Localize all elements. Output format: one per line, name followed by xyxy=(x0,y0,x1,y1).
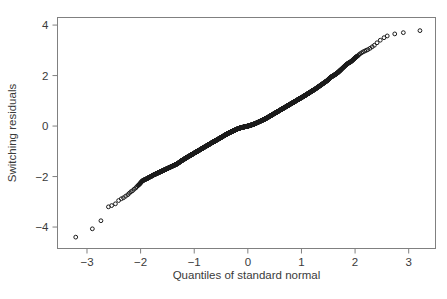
qq-plot-screenshot: −3−2−10123 420−2−4 Quantiles of standard… xyxy=(0,0,447,299)
figure-background xyxy=(0,0,447,299)
x-tick-label: 1 xyxy=(298,256,304,268)
x-tick-label: −1 xyxy=(188,256,201,268)
y-axis-label: Switching residuals xyxy=(6,84,18,183)
x-tick-label: 0 xyxy=(245,256,251,268)
y-tick-label: 4 xyxy=(42,19,49,31)
y-tick-label: 2 xyxy=(42,70,48,82)
y-tick-label: −2 xyxy=(35,171,48,183)
x-axis-label: Quantiles of standard normal xyxy=(173,269,321,281)
x-tick-label: 3 xyxy=(405,256,411,268)
x-tick-label: −3 xyxy=(80,256,93,268)
y-tick-label: 0 xyxy=(42,120,48,132)
y-tick-label: −4 xyxy=(35,221,49,233)
qq-plot-figure: −3−2−10123 420−2−4 Quantiles of standard… xyxy=(0,0,447,299)
x-tick-label: −2 xyxy=(134,256,147,268)
x-tick-label: 2 xyxy=(352,256,358,268)
